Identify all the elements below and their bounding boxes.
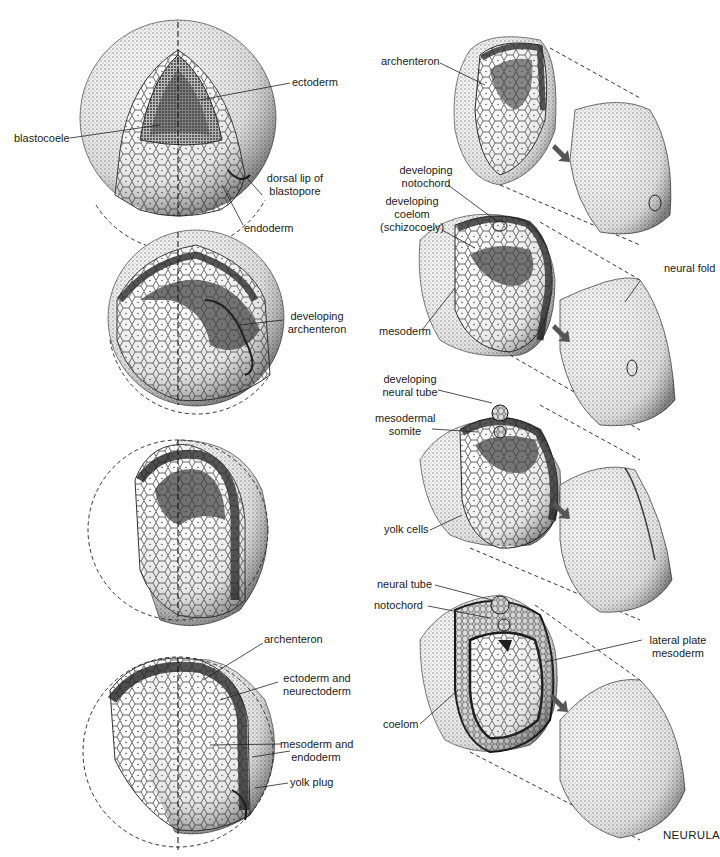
- right-stage-4: [420, 595, 685, 840]
- label-mesoderm: mesoderm: [379, 325, 431, 338]
- label-developing-neural-tube: developing neural tube: [381, 373, 439, 399]
- label-developing-notochord: developing notochord: [398, 164, 454, 190]
- arrow-icon: [552, 144, 570, 162]
- label-line: lateral plate: [640, 634, 716, 647]
- label-archenteron-left: archenteron: [264, 633, 323, 646]
- label-blastocoele: blastocoele: [14, 132, 70, 145]
- label-line: mesoderm and: [280, 738, 352, 751]
- label-line: coelom: [380, 208, 444, 221]
- left-stage-2: [108, 230, 284, 414]
- label-neural-tube: neural tube: [377, 578, 432, 591]
- label-line: developing: [381, 373, 439, 386]
- label-neural-fold: neural fold: [664, 262, 715, 275]
- label-line: (schizocoely): [380, 221, 444, 234]
- label-yolk-cells: yolk cells: [384, 523, 429, 536]
- label-line: developing: [282, 310, 352, 323]
- label-line: blastopore: [265, 185, 325, 198]
- label-endoderm: endoderm: [244, 222, 294, 235]
- label-notochord: notochord: [374, 599, 423, 612]
- label-developing-coelom: developing coelom (schizocoely): [380, 195, 444, 234]
- label-line: archenteron: [282, 323, 352, 336]
- label-line: mesoderm: [640, 647, 716, 660]
- label-lateral-plate-mesoderm: lateral plate mesoderm: [640, 634, 716, 660]
- label-line: dorsal lip of: [265, 172, 325, 185]
- label-line: developing: [380, 195, 444, 208]
- right-stage-3: [420, 405, 672, 620]
- label-line: somite: [375, 425, 435, 438]
- label-line: endoderm: [280, 751, 352, 764]
- left-stage-3: [88, 440, 268, 626]
- label-archenteron-right: archenteron: [381, 55, 440, 68]
- label-dorsal-lip-of-blastopore: dorsal lip of blastopore: [265, 172, 325, 198]
- label-developing-archenteron: developing archenteron: [282, 310, 352, 336]
- label-mesoderm-and-endoderm: mesoderm and endoderm: [280, 738, 352, 764]
- embryo-illustration: [0, 0, 720, 857]
- label-ectoderm: ectoderm: [292, 76, 338, 89]
- label-ectoderm-and-neurectoderm: ectoderm and neurectoderm: [278, 672, 356, 698]
- label-line: developing: [398, 164, 454, 177]
- label-line: neural tube: [381, 386, 439, 399]
- label-line: ectoderm and: [278, 672, 356, 685]
- label-line: mesodermal: [375, 412, 435, 425]
- label-line: neurectoderm: [278, 685, 356, 698]
- label-mesodermal-somite: mesodermal somite: [375, 412, 435, 438]
- left-stage-1: [80, 20, 276, 251]
- right-stage-2: [419, 214, 675, 430]
- figure-title: NEURULA: [663, 829, 720, 841]
- label-coelom: coelom: [383, 718, 418, 731]
- left-stage-4: [83, 657, 275, 850]
- label-line: notochord: [398, 177, 454, 190]
- label-yolk-plug: yolk plug: [290, 776, 333, 789]
